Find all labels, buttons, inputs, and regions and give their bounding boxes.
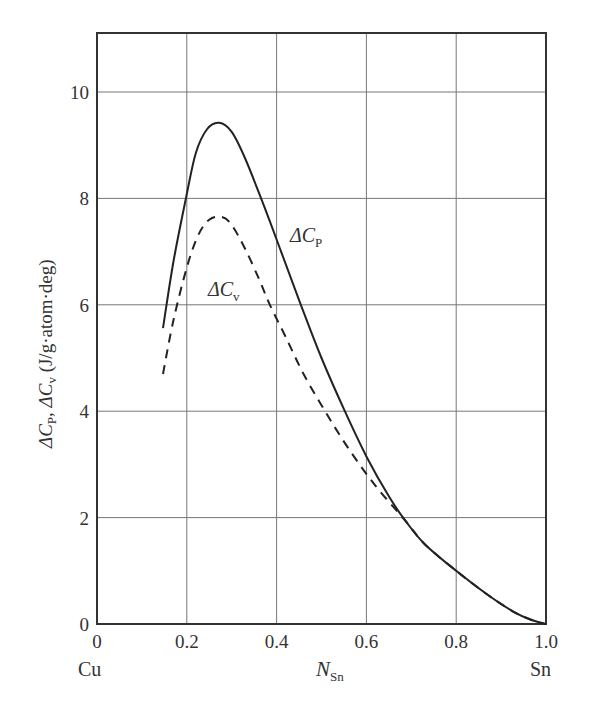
- grid-lines: [97, 33, 546, 624]
- x-tick-label: 0.2: [175, 631, 199, 652]
- x-tick-label: 0.8: [444, 631, 468, 652]
- chart: 0246810 00.20.40.60.81.0 ΔCP, ΔCv (J/g·a…: [0, 0, 589, 716]
- x-axis-label: NSn: [315, 657, 344, 684]
- x-tick-label: 1.0: [534, 631, 558, 652]
- y-tick-label: 0: [80, 614, 90, 635]
- plot-frame: [97, 33, 546, 624]
- y-axis-ticks: 0246810: [70, 82, 90, 635]
- y-tick-label: 6: [80, 295, 90, 316]
- series-label-cv: ΔCv: [207, 278, 240, 304]
- x-tick-label: 0.4: [265, 631, 289, 652]
- x-end-label-cu: Cu: [78, 658, 101, 680]
- series-label-cp: ΔCP: [289, 224, 322, 250]
- x-axis-ticks: 00.20.40.60.81.0: [92, 631, 558, 652]
- y-tick-label: 10: [70, 82, 89, 103]
- y-tick-label: 8: [80, 188, 90, 209]
- y-tick-label: 2: [80, 508, 90, 529]
- x-end-label-sn: Sn: [530, 658, 551, 680]
- y-tick-label: 4: [80, 401, 90, 422]
- x-tick-label: 0.6: [355, 631, 379, 652]
- x-tick-label: 0: [92, 631, 102, 652]
- y-axis-label: ΔCP, ΔCv (J/g·atom·deg): [35, 259, 59, 449]
